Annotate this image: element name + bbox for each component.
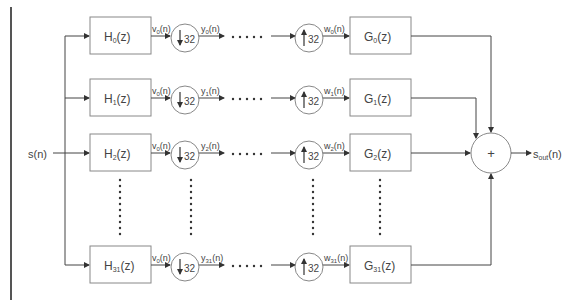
ellipsis-dot xyxy=(190,227,192,229)
ellipsis-dot xyxy=(239,265,241,267)
sum-symbol: + xyxy=(487,146,495,161)
ellipsis-dot xyxy=(119,221,121,223)
ellipsis-dot xyxy=(379,203,381,205)
ellipsis-dot xyxy=(312,227,314,229)
w-signal-label: w31(n) xyxy=(323,253,348,264)
ellipsis-dot xyxy=(119,191,121,193)
ellipsis-dot xyxy=(119,179,121,181)
v-signal-label: v0(n) xyxy=(152,253,171,264)
ellipsis-dot xyxy=(190,203,192,205)
ellipsis-dot xyxy=(190,221,192,223)
decimation-factor: 32 xyxy=(184,34,196,45)
ellipsis-dot xyxy=(246,153,248,155)
filter-branch-0: H0(z)v0(n)32y0(n)32w0(n)G0(z) xyxy=(90,17,411,54)
ellipsis-dot xyxy=(312,191,314,193)
decimation-factor: 32 xyxy=(184,263,196,274)
filter-branch-2: H2(z)v0(n)32y2(n)32w2(n)G2(z) xyxy=(90,134,411,171)
ellipsis-dot xyxy=(253,36,255,38)
ellipsis-dot xyxy=(312,209,314,211)
ellipsis-dot xyxy=(379,209,381,211)
interpolation-factor: 32 xyxy=(308,34,320,45)
analysis-filter-label: H1(z) xyxy=(104,92,131,106)
ellipsis-dot xyxy=(239,36,241,38)
ellipsis-dot xyxy=(379,185,381,187)
ellipsis-dot xyxy=(119,197,121,199)
y-signal-label: y31(n) xyxy=(201,253,223,264)
ellipsis-dot xyxy=(312,203,314,205)
ellipsis-dot xyxy=(312,197,314,199)
ellipsis-dot xyxy=(119,233,121,235)
v-signal-label: v0(n) xyxy=(152,141,171,152)
filter-bank-diagram: s(n) H0(z)v0(n)32y0(n)32w0(n)G0(z)H1(z)v… xyxy=(0,0,578,300)
ellipsis-dot xyxy=(260,98,262,100)
ellipsis-dot xyxy=(190,191,192,193)
ellipsis-dot xyxy=(119,215,121,217)
ellipsis-dot xyxy=(119,227,121,229)
ellipsis-dot xyxy=(190,233,192,235)
decimation-factor: 32 xyxy=(184,151,196,162)
ellipsis-dot xyxy=(239,98,241,100)
input-label: s(n) xyxy=(28,148,47,160)
analysis-filter-label: H2(z) xyxy=(104,147,131,161)
w-signal-label: w0(n) xyxy=(323,24,345,35)
ellipsis-dot xyxy=(246,265,248,267)
ellipsis-dot xyxy=(379,215,381,217)
ellipsis-dot xyxy=(239,153,241,155)
ellipsis-dot xyxy=(232,98,234,100)
decimation-factor: 32 xyxy=(184,96,196,107)
ellipsis-dot xyxy=(190,197,192,199)
ellipsis-dot xyxy=(119,209,121,211)
ellipsis-dot xyxy=(379,179,381,181)
ellipsis-dot xyxy=(253,153,255,155)
ellipsis-dot xyxy=(119,203,121,205)
filter-branch-1: H1(z)v0(n)32y1(n)32w1(n)G1(z) xyxy=(90,79,411,116)
ellipsis-dot xyxy=(260,36,262,38)
synthesis-filter-label: G0(z) xyxy=(364,30,391,44)
ellipsis-dot xyxy=(232,36,234,38)
ellipsis-dot xyxy=(312,215,314,217)
output-label: sout(n) xyxy=(533,148,562,161)
ellipsis-dot xyxy=(253,265,255,267)
g1-to-sum xyxy=(411,98,476,138)
interpolation-factor: 32 xyxy=(308,263,320,274)
synthesis-filter-label: G2(z) xyxy=(364,147,391,161)
ellipsis-dot xyxy=(260,265,262,267)
ellipsis-dot xyxy=(312,233,314,235)
ellipsis-dot xyxy=(232,265,234,267)
ellipsis-dot xyxy=(312,185,314,187)
ellipsis-dot xyxy=(232,153,234,155)
interpolation-factor: 32 xyxy=(308,96,320,107)
ellipsis-dot xyxy=(260,153,262,155)
v-signal-label: v0(n) xyxy=(152,86,171,97)
ellipsis-dot xyxy=(253,98,255,100)
ellipsis-dot xyxy=(246,36,248,38)
ellipsis-dot xyxy=(190,185,192,187)
ellipsis-dot xyxy=(379,197,381,199)
g0-to-sum xyxy=(411,36,491,132)
interpolation-factor: 32 xyxy=(308,151,320,162)
ellipsis-dot xyxy=(379,227,381,229)
ellipsis-dot xyxy=(379,191,381,193)
ellipsis-dot xyxy=(312,221,314,223)
ellipsis-dot xyxy=(190,209,192,211)
ellipsis-dot xyxy=(190,215,192,217)
analysis-filter-label: H0(z) xyxy=(104,30,131,44)
filter-branch-3: H31(z)v0(n)32y31(n)32w31(n)G31(z) xyxy=(90,246,411,283)
w-signal-label: w1(n) xyxy=(323,86,345,97)
y-signal-label: y0(n) xyxy=(201,24,220,35)
ellipsis-dot xyxy=(379,233,381,235)
vertical-ellipsis xyxy=(119,179,381,235)
y-signal-label: y1(n) xyxy=(201,86,220,97)
ellipsis-dot xyxy=(246,98,248,100)
ellipsis-dot xyxy=(379,221,381,223)
y-signal-label: y2(n) xyxy=(201,141,220,152)
v-signal-label: v0(n) xyxy=(152,24,171,35)
synthesis-filter-label: G1(z) xyxy=(364,92,391,106)
ellipsis-dot xyxy=(312,179,314,181)
ellipsis-dot xyxy=(190,179,192,181)
g31-to-sum xyxy=(411,174,491,265)
w-signal-label: w2(n) xyxy=(323,141,345,152)
ellipsis-dot xyxy=(119,185,121,187)
